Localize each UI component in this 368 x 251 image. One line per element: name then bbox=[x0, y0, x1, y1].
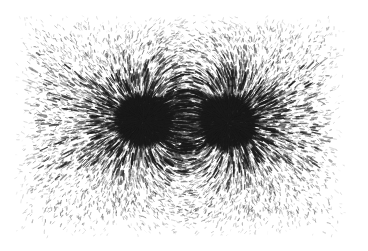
magnetic-field-canvas bbox=[0, 0, 368, 251]
iron-filings-figure: Magnetic field lines of two attracting p… bbox=[0, 0, 368, 251]
